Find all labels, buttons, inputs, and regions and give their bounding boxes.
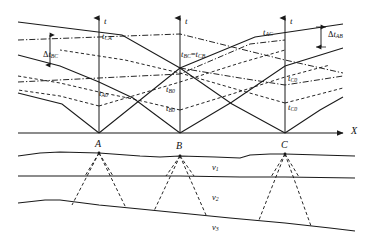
ray-B-left-deep [154,156,180,211]
raypaths-B [154,156,206,215]
label-t-B0-upper: tB0 [166,85,175,95]
ray-C-left-shallow [271,154,285,177]
velocity-label-v3: v3 [212,223,219,233]
label-t-B0l-sub: B0 [168,107,174,113]
refractor-2 [18,200,355,231]
label-t-A0: tA0 [99,89,108,99]
velocity-v1-sub: 1 [216,166,219,172]
ray-C-right-shallow [285,154,299,177]
label-tbc-sub: BC [183,53,190,59]
label-t-B0-lower: tB0 [166,104,175,114]
curve-direct-C-left [18,22,285,133]
label-t-CA-sub: CA [104,35,111,41]
curve-refr2-C-right [285,88,343,103]
shot-point-label-C: C [281,140,288,150]
curve-refr3-A [18,40,285,82]
label-t-C0l-sub: C0 [290,106,297,112]
velocity-v2-sub: 2 [216,196,219,202]
label-t-C0-lower: tC0 [288,103,297,113]
label-t-B0u-sub: B0 [168,88,174,94]
ray-B-left-shallow [166,156,180,176]
label-t-AC-sub: AC [265,31,272,37]
curve-refr2-C-left [60,50,285,103]
velocity-label-v2: v2 [212,193,219,203]
label-t-A0-sub: A0 [101,92,107,98]
shot-marker-C [284,153,287,156]
raypaths-A [72,153,126,208]
label-t-C0-upper: tC0 [288,74,297,84]
figure-root: t t t X tCA tAC tBC=tCB tA0 tB0 tB0 tC0 … [0,0,372,242]
geological-section [18,152,355,231]
label-t-AC: tAC [263,28,273,38]
shot-marker-B [179,155,182,158]
velocity-v3-sub: 3 [216,226,219,232]
ray-A-right-shallow [99,153,113,176]
label-delta-ab-sub: AB [336,33,343,39]
surface-interface [18,152,355,158]
ray-A-left-shallow [85,153,99,176]
refractor-1 [18,176,355,178]
x-axis-label: X [351,126,357,136]
curve-direct-A-left [18,93,99,133]
travel-time-diagram-svg [0,0,372,242]
ray-A-right-deep [99,153,126,208]
velocity-label-v1: v1 [212,163,219,173]
curve-direct-A-right [99,24,343,133]
ray-C-right-deep [285,154,311,226]
label-tcb-sub: CB [198,53,205,59]
label-t-C0u-sub: C0 [290,77,297,83]
label-delta-t-BC: ΔtBC [43,50,58,60]
ray-A-left-deep [72,153,99,205]
t-axis-label-C: t [290,17,293,26]
t-axis-label-A: t [104,17,107,26]
label-delta-bc-sub: BC [51,53,58,59]
ray-C-left-deep [259,154,285,220]
label-t-CA: tCA [102,32,112,42]
label-delta-t-AB: ΔtAB [328,30,343,40]
ray-B-right-deep [180,156,206,215]
shot-point-label-B: B [176,141,182,151]
raypaths-C [259,154,311,226]
shot-point-label-A: A [95,139,101,149]
shot-marker-A [98,152,101,155]
label-t-BC-eq-t-CB: tBC=tCB [181,50,205,60]
t-axis-label-B: t [185,17,188,26]
